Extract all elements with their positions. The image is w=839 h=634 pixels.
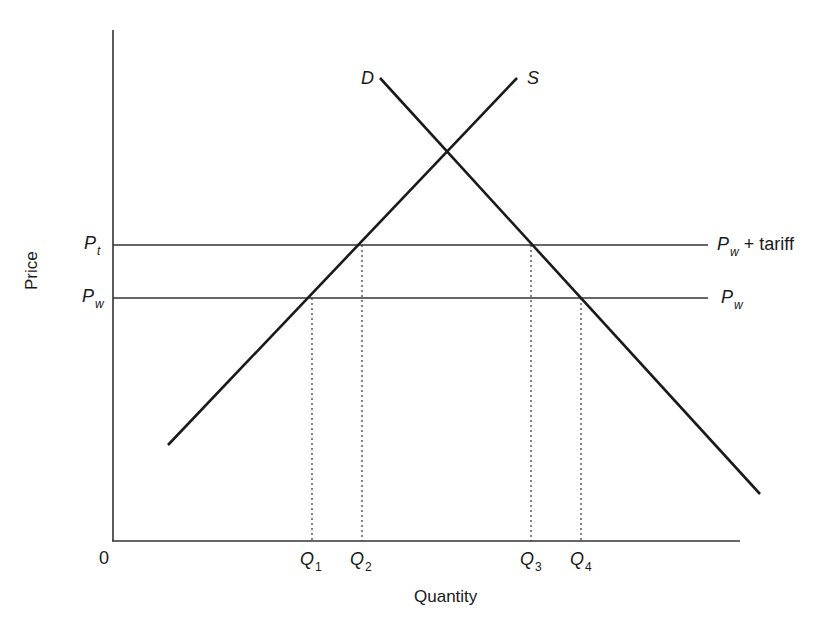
demand-curve: [380, 78, 760, 494]
demand-label: D: [361, 69, 374, 87]
q4-tick-label: Q4: [570, 550, 592, 568]
supply-label: S: [527, 69, 539, 87]
x-axis-title: Quantity: [414, 587, 477, 607]
origin-label: 0: [99, 549, 109, 567]
q3-tick-label: Q3: [520, 550, 542, 568]
pw-right-label: Pw: [721, 288, 743, 306]
chart-canvas: [0, 0, 839, 634]
q1-tick-label: Q1: [300, 550, 322, 568]
pt-tick-label: Pt: [84, 234, 100, 252]
pw-plus-tariff-label: Pw + tariff: [717, 235, 794, 253]
supply-curve: [168, 78, 517, 445]
y-axis-title: Price: [22, 251, 42, 290]
q2-tick-label: Q2: [350, 550, 372, 568]
pw-tick-label: Pw: [82, 287, 104, 305]
